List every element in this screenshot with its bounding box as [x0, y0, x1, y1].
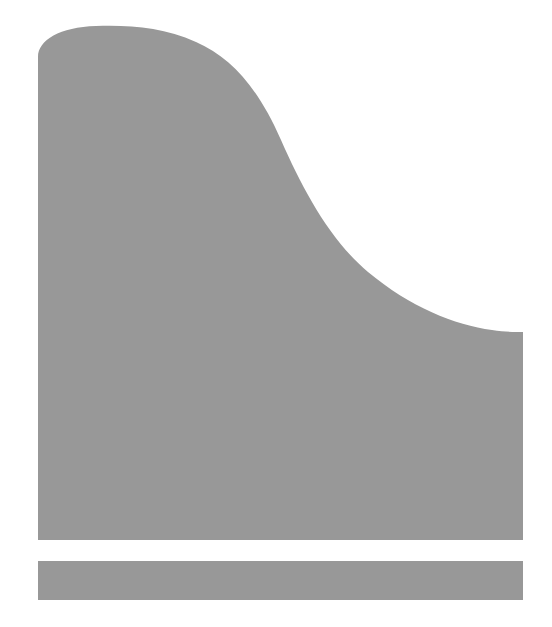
figure-container: Grey silhouette figure: [0, 0, 552, 627]
lower-bar: [38, 561, 523, 600]
figure-canvas: [0, 0, 552, 627]
